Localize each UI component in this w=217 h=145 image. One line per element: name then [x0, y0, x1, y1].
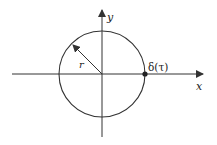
point-label: δ(τ) — [148, 61, 168, 73]
y-axis-label: y — [106, 11, 114, 24]
point-marker — [142, 71, 147, 76]
radius-arrow — [73, 45, 102, 74]
radius-label: r — [79, 59, 85, 70]
circle-diagram: y x r δ(τ) — [0, 0, 217, 145]
x-axis-label: x — [196, 80, 203, 93]
